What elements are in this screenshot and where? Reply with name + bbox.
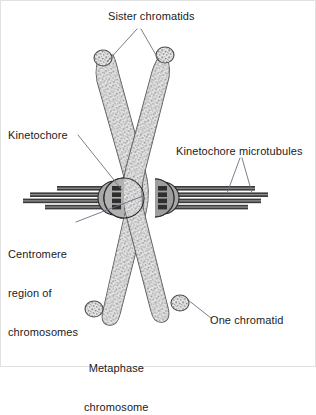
label-one-chromatid: One chromatid <box>210 314 283 327</box>
label-kinetochore: Kinetochore <box>8 129 68 142</box>
label-metaphase-line-2: chromosome <box>84 401 149 414</box>
label-kinetochore-microtubules: Kinetochore microtubules <box>176 145 303 158</box>
label-metaphase-line-1: Metaphase <box>84 362 149 375</box>
label-centromere-line-2: region of <box>8 287 78 300</box>
label-centromere-line-1: Centromere <box>8 248 78 261</box>
label-centromere-line-3: chromosomes <box>8 326 78 339</box>
label-centromere-region: Centromere region of chromosomes <box>8 222 78 352</box>
label-metaphase-chromosome: Metaphase chromosome <box>84 336 149 415</box>
label-sister-chromatids: Sister chromatids <box>108 10 195 23</box>
